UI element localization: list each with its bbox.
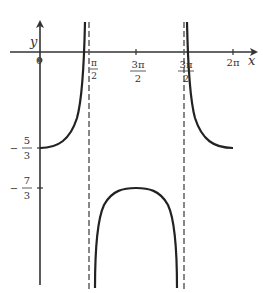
x-axis-label: x [248,53,256,68]
svg-text:2: 2 [91,71,97,81]
curve-branch-right [187,22,233,148]
svg-text:7: 7 [24,175,30,186]
y-tick-label-neg-5-over-3: − 5 3 [10,135,32,161]
function-graph: y x 0 π 2 3π 2 3π 2 2π − 5 3 − 7 3 [0,0,263,293]
svg-text:5: 5 [24,135,30,146]
svg-text:−: − [10,143,18,154]
svg-text:π: π [91,58,97,68]
curve-branch-middle [95,188,177,288]
svg-text:3: 3 [24,190,30,201]
svg-text:2: 2 [183,73,189,84]
x-tick-label-pi-over-2: π 2 [90,58,98,81]
x-tick-label-2pi: 2π [227,57,240,68]
svg-text:3π: 3π [180,59,193,70]
origin-label: 0 [36,55,42,66]
x-tick-label-pi: 3π 2 [130,59,146,84]
y-axis-label: y [29,34,38,49]
svg-text:3: 3 [24,150,30,161]
svg-text:3π: 3π [132,59,145,70]
curve-branch-left [40,22,85,148]
svg-text:2: 2 [135,73,141,84]
y-tick-label-neg-7-over-3: − 7 3 [10,175,32,201]
x-tick-label-3pi-over-2: 3π 2 [178,59,194,84]
svg-text:−: − [10,183,18,194]
